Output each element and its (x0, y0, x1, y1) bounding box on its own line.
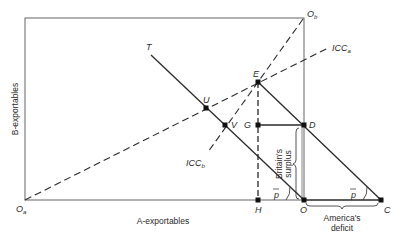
point-D-label: D (309, 120, 316, 130)
y-axis-label: B-exportables (10, 83, 20, 135)
svg-text:surplus: surplus (283, 150, 293, 177)
point-C-label: C (384, 205, 391, 215)
point-D-marker (302, 123, 307, 128)
point-E-marker (256, 80, 261, 85)
point-H-marker (256, 198, 261, 203)
y-axis-label-group: B-exportables (10, 83, 20, 135)
edgeworth-box-frame (25, 18, 304, 200)
point-U-marker (204, 106, 209, 111)
america-deficit-line2: deficit (331, 223, 354, 233)
angle-p-left-label: p (273, 190, 279, 200)
icc-a-label: ICCa (332, 43, 352, 54)
price-line-EC (258, 82, 381, 200)
america-deficit-brace (306, 203, 378, 209)
britain-surplus-annotation: Britain's surplus (274, 149, 293, 179)
edgeworth-box-diagram: Ob Oa ICCa ICCb T E U V G D H O C p p Br… (0, 0, 403, 241)
angle-arc-right (363, 187, 367, 200)
trade-line-label: T (146, 42, 153, 52)
point-V-marker (223, 123, 228, 128)
point-H-label: H (255, 205, 262, 215)
point-C-marker (379, 198, 384, 203)
point-U-label: U (203, 95, 210, 105)
point-V-label: V (231, 120, 238, 130)
angle-p-right-label: p (350, 190, 356, 200)
icc-b-curve (208, 19, 303, 152)
x-axis-label: A-exportables (137, 216, 189, 226)
point-G-marker (256, 123, 261, 128)
angle-arc-left (286, 187, 290, 200)
point-G-label: G (244, 120, 251, 130)
origin-b-label: Ob (307, 9, 318, 20)
origin-a-label: Oa (16, 204, 27, 215)
america-deficit-line1: America's (323, 213, 360, 223)
point-O-marker (302, 198, 307, 203)
icc-b-label: ICCb (186, 158, 206, 169)
point-O-label: O (300, 205, 307, 215)
britain-surplus-brace (293, 128, 299, 199)
point-E-label: E (253, 69, 260, 79)
